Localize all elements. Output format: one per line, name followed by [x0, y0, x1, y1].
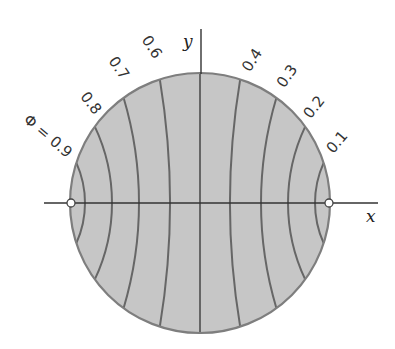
- boundary-node-marker: [67, 199, 75, 207]
- y-axis-label: y: [182, 31, 193, 51]
- potential-label: 0.4: [238, 45, 266, 75]
- potential-label: 0.7: [105, 53, 133, 83]
- potential-label: 0.6: [138, 32, 166, 62]
- potential-label: 0.3: [273, 61, 301, 91]
- potential-label: Φ = 0.9: [20, 111, 76, 162]
- potential-label: 0.2: [300, 92, 329, 122]
- boundary-node-marker: [325, 199, 333, 207]
- potential-label: 0.1: [322, 127, 351, 157]
- equipotential-diagram: x y 0.10.20.30.40.60.70.8Φ = 0.9: [0, 0, 395, 349]
- potential-label: 0.8: [77, 88, 106, 118]
- x-axis-label: x: [366, 206, 376, 226]
